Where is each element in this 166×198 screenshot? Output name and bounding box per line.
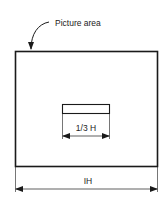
picture-area-diagram: Picture area 1/3 H IH [0,0,166,198]
callout-label: Picture area [55,18,101,28]
diagram-canvas: Picture area 1/3 H IH [0,0,166,198]
inner-dimension-label: 1/3 H [76,123,96,133]
outer-dimension-label: IH [84,176,93,186]
picture-area-rect [16,52,158,167]
callout-arrow-icon [31,22,49,49]
inner-box-rect [63,105,110,114]
